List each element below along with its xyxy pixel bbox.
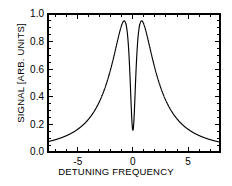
y-axis-tick-label: 0.0 xyxy=(30,146,44,157)
plot-area: -5050.00.20.40.60.81.0 xyxy=(0,0,232,186)
y-axis-tick-label: 0.6 xyxy=(30,64,44,75)
y-axis-title-wrapper: SIGNAL [ARB. UNITS] xyxy=(10,0,28,148)
y-axis-title: SIGNAL [ARB. UNITS] xyxy=(15,23,26,123)
chart-generated-content: -5050.00.20.40.60.81.0 xyxy=(30,8,220,167)
y-axis-tick-label: 1.0 xyxy=(30,8,44,19)
y-axis-tick-label: 0.4 xyxy=(30,91,44,102)
x-axis-title: DETUNING FREQUENCY xyxy=(0,166,232,177)
chart-figure: -5050.00.20.40.60.81.0 SIGNAL [ARB. UNIT… xyxy=(0,0,232,186)
y-axis-tick-label: 0.8 xyxy=(30,36,44,47)
data-series-line xyxy=(48,21,220,142)
y-axis-tick-label: 0.2 xyxy=(30,119,44,130)
